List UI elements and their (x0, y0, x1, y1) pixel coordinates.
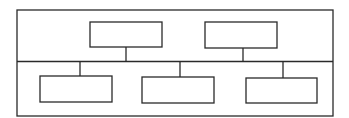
lower-left-node (40, 76, 112, 102)
upper-right-node (205, 22, 277, 48)
upper-right-box (205, 22, 277, 48)
block-diagram (0, 0, 349, 118)
lower-right-box (246, 78, 317, 103)
upper-left-box (90, 22, 162, 47)
upper-left-node (90, 22, 162, 47)
lower-middle-box (142, 77, 214, 103)
lower-right-node (246, 78, 317, 103)
lower-left-box (40, 76, 112, 102)
lower-middle-node (142, 77, 214, 103)
